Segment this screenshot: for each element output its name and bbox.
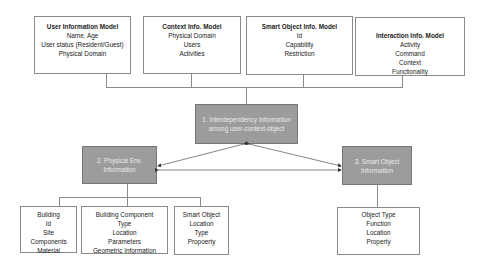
box-item: Name. Age [67, 31, 99, 40]
box-item: Building Component [96, 210, 154, 219]
box-title: Interaction Info. Model [376, 31, 444, 40]
node-label: 2. Physical Env. Information [87, 156, 152, 174]
box-item: Function [366, 219, 391, 228]
smart-object-info-model-box: Smart Object Info. Model Id Capability R… [246, 16, 353, 75]
box-item: Object Type [362, 210, 396, 219]
box-item: Location [189, 219, 213, 228]
interdependency-node: 1. Interdependency Information among use… [195, 104, 298, 144]
building-component-box: Building Component Type Location Paramet… [81, 206, 168, 254]
box-title: Context Info. Model [162, 22, 221, 31]
box-item: Activity [400, 40, 420, 49]
connector-line [106, 87, 403, 88]
user-information-model-box: User Information Model Name. Age User st… [34, 16, 131, 74]
connector-line [191, 74, 192, 87]
box-item: Location [112, 228, 136, 237]
box-item: Restriction [284, 49, 314, 58]
connector-line [127, 197, 128, 206]
connector-line [303, 75, 304, 87]
smart-object-location-box: Smart Object Location Type Propoerty [174, 206, 229, 255]
box-item: Smart Object [183, 210, 220, 219]
node-label: 1. Interdependency Information among use… [200, 115, 293, 133]
box-item: Propoerty [188, 237, 216, 246]
box-item: Parameters [108, 237, 141, 246]
interaction-info-model-box: Interaction Info. Model Activity Command… [355, 17, 465, 76]
connector-line [246, 87, 247, 104]
box-item: Id [46, 219, 51, 228]
box-item: Property [366, 237, 390, 246]
box-item: Users [184, 40, 201, 49]
connector-line [200, 197, 201, 206]
smart-object-node: 3. Smart Object Information [342, 146, 412, 185]
connector-line [127, 184, 128, 197]
object-type-box: Object Type Function Location Property [337, 207, 420, 255]
box-item: Components [30, 237, 66, 246]
box-item: Capability [285, 40, 313, 49]
box-item: Activities [179, 49, 204, 58]
box-item: Physical Domain [168, 31, 216, 40]
box-item: Functionality [392, 67, 428, 76]
context-info-model-box: Context Info. Model Physical Domain User… [143, 16, 241, 74]
box-item: Context [399, 58, 421, 67]
box-item: Site [43, 228, 54, 237]
box-item: Material [37, 246, 60, 255]
physical-env-node: 2. Physical Env. Information [82, 146, 157, 184]
connector-line [59, 197, 200, 198]
connector-line [377, 185, 378, 207]
box-item: Building [37, 210, 60, 219]
box-item: User status (Resident/Guest) [41, 40, 123, 49]
box-item: Geometric Information [93, 246, 156, 255]
box-item: Id [297, 31, 302, 40]
connector-line [59, 197, 60, 206]
box-title: Smart Object Info. Model [262, 22, 337, 31]
box-item: Location [366, 228, 390, 237]
box-item: Type [118, 219, 132, 228]
box-title: User Information Model [47, 22, 118, 31]
box-item: Command [395, 49, 424, 58]
building-box: Building Id Site Components Material [20, 206, 77, 253]
box-item: Type [195, 228, 209, 237]
node-label: 3. Smart Object Information [347, 157, 407, 175]
box-item: Physical Domain [59, 49, 107, 58]
connector-line [106, 74, 107, 87]
